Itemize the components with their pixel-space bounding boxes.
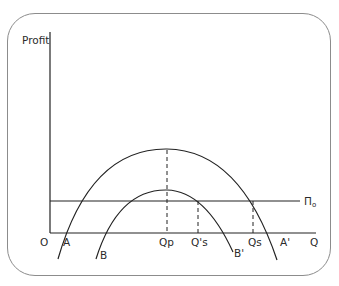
curve-a-label: A	[63, 236, 71, 248]
origin-label: O	[40, 236, 48, 248]
inner-profit-curve	[96, 190, 233, 259]
curve-b-label: B	[100, 249, 107, 261]
qs-prime-label: Q's	[191, 236, 208, 248]
y-axis-label: Profit	[22, 34, 49, 46]
qs-label: Qs	[248, 236, 262, 248]
constraint-line-label: Πo	[304, 195, 316, 209]
curve-b-prime-label: B'	[234, 247, 244, 259]
curve-a-prime-label: A'	[280, 236, 290, 248]
pi-symbol: Π	[304, 195, 312, 207]
x-axis-label: Q	[310, 236, 318, 248]
profit-diagram: Profit O A B Qp Q's B' Qs A' Q Πo	[0, 0, 339, 286]
pi-subscript: o	[312, 201, 316, 209]
qp-label: Qp	[159, 236, 174, 248]
